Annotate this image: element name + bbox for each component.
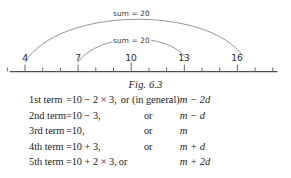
row-value: 10, xyxy=(72,126,117,142)
row-term: 5th term xyxy=(29,157,66,173)
arc-label-inner: sum = 20 xyxy=(112,36,151,45)
equation-row: 3rd term = 10, or m xyxy=(29,126,210,142)
equation-row: 2nd term = 10 − 3, or m − d xyxy=(29,111,210,127)
axis-label-13: 13 xyxy=(173,52,195,63)
figure-caption: Fig. 6.3 xyxy=(0,79,291,90)
figure-diagram: sum = 20 sum = 20 4 7 10 13 16 Fig. 6.3 xyxy=(0,0,291,96)
row-term: 1st term xyxy=(29,95,66,111)
row-or: or (in general) xyxy=(117,95,180,111)
equation-table: 1st term = 10 − 2 × 3, or (in general) m… xyxy=(29,95,210,173)
row-value: 10 + 2 × 3, xyxy=(72,157,117,173)
axis-label-4: 4 xyxy=(15,52,35,63)
row-or: or xyxy=(117,126,180,142)
equation-list: 1st term = 10 − 2 × 3, or (in general) m… xyxy=(0,95,291,173)
row-general: m − d xyxy=(180,111,211,127)
row-general: m + 2d xyxy=(180,157,211,173)
row-general: m xyxy=(180,126,211,142)
row-value: 10 − 2 × 3, xyxy=(72,95,117,111)
row-general: m − 2d xyxy=(180,95,211,111)
equation-row: 5th term = 10 + 2 × 3, or m + 2d xyxy=(29,157,210,173)
row-term: 3rd term xyxy=(29,126,66,142)
row-value: 10 − 3, xyxy=(72,111,117,127)
axis-ticks xyxy=(0,63,273,72)
row-or: or xyxy=(117,157,180,173)
arc-label-outer: sum = 20 xyxy=(112,9,151,18)
row-or: or xyxy=(117,142,180,158)
axis-label-10: 10 xyxy=(120,52,142,63)
row-general: m + d xyxy=(180,142,211,158)
equation-row: 4th term = 10 + 3, or m + d xyxy=(29,142,210,158)
row-or: or xyxy=(117,111,180,127)
row-term: 4th term xyxy=(29,142,66,158)
row-term: 2nd term xyxy=(29,111,66,127)
row-value: 10 + 3, xyxy=(72,142,117,158)
axis-label-7: 7 xyxy=(68,52,88,63)
axis-label-16: 16 xyxy=(226,52,248,63)
equation-row: 1st term = 10 − 2 × 3, or (in general) m… xyxy=(29,95,210,111)
